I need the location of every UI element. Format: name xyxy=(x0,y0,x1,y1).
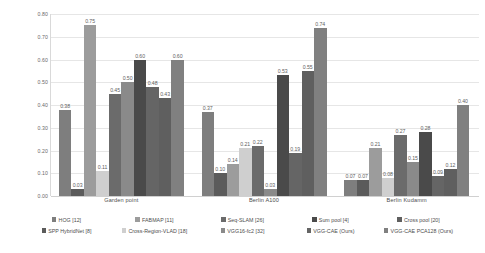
bar[interactable]: 0.21 xyxy=(369,148,382,196)
legend-item[interactable]: FABMAP [11] xyxy=(111,217,199,223)
legend-item[interactable]: VGG-CAE (Ours) xyxy=(287,228,375,234)
bar[interactable]: 0.60 xyxy=(171,60,184,197)
y-axis-tick-label: 0.50 xyxy=(18,79,48,85)
bar-slot: 0.48 xyxy=(146,14,159,196)
bar-value-label: 0.55 xyxy=(303,64,313,70)
legend-item[interactable]: HOG [12] xyxy=(23,217,111,223)
legend-label: VGG-CAE (Ours) xyxy=(313,228,354,234)
legend-label: Sum pool [4] xyxy=(319,217,349,223)
bar-slot: 0.07 xyxy=(344,14,357,196)
legend-item[interactable]: Cross-Region-VLAD [18] xyxy=(111,228,199,234)
bar-value-label: 0.14 xyxy=(228,157,238,163)
bar-value-label: 0.43 xyxy=(160,91,170,97)
bar-slot: 0.15 xyxy=(407,14,420,196)
y-axis-tick-label: 0.30 xyxy=(18,125,48,131)
bar[interactable]: 0.12 xyxy=(444,169,457,196)
y-axis-tick-label: 0.00 xyxy=(18,193,48,199)
bar-slot: 0.28 xyxy=(419,14,432,196)
legend-swatch-icon xyxy=(312,217,317,222)
x-axis-category-label: Berlin Kudamm xyxy=(335,197,478,203)
bar[interactable]: 0.40 xyxy=(457,105,470,196)
bar[interactable]: 0.11 xyxy=(96,171,109,196)
legend-swatch-icon xyxy=(221,217,226,222)
bar[interactable]: 0.55 xyxy=(302,71,315,196)
bar-slot: 0.12 xyxy=(444,14,457,196)
legend-row: HOG [12]FABMAP [11]Seq-SLAM [26]Sum pool… xyxy=(0,214,485,225)
y-axis-tick-label: 0.10 xyxy=(18,170,48,176)
bar-slot: 0.37 xyxy=(202,14,215,196)
bar-group: 0.370.100.140.210.220.030.530.190.550.74 xyxy=(193,14,336,196)
bar-slot: 0.74 xyxy=(314,14,327,196)
legend-item[interactable]: VGG-CAE PCA128 (Ours) xyxy=(375,228,463,234)
bar[interactable]: 0.15 xyxy=(407,162,420,196)
legend-label: FABMAP [11] xyxy=(142,217,174,223)
bar-slot: 0.09 xyxy=(432,14,445,196)
bar[interactable]: 0.50 xyxy=(121,82,134,196)
bar-slot: 0.14 xyxy=(227,14,240,196)
bar[interactable]: 0.03 xyxy=(71,189,84,196)
y-axis-tick-label: 0.60 xyxy=(18,57,48,63)
y-axis-tick-label: 0.20 xyxy=(18,148,48,154)
bar[interactable]: 0.27 xyxy=(394,135,407,196)
bar-value-label: 0.07 xyxy=(345,173,355,179)
bar[interactable]: 0.45 xyxy=(109,94,122,196)
bar-slot: 0.40 xyxy=(457,14,470,196)
bar-value-label: 0.19 xyxy=(290,146,300,152)
bar-slot: 0.08 xyxy=(382,14,395,196)
bar-value-label: 0.03 xyxy=(73,182,83,188)
legend-item[interactable]: SPP HybridNet [8] xyxy=(23,228,111,234)
bar[interactable]: 0.75 xyxy=(84,25,97,196)
bar-slot: 0.03 xyxy=(71,14,84,196)
legend-swatch-icon xyxy=(221,228,226,233)
bar-group: 0.070.070.210.080.270.150.280.090.120.40 xyxy=(335,14,478,196)
bar-value-label: 0.50 xyxy=(123,75,133,81)
bar-value-label: 0.10 xyxy=(215,166,225,172)
bar-value-label: 0.45 xyxy=(110,87,120,93)
legend-swatch-icon xyxy=(135,217,140,222)
bar[interactable]: 0.28 xyxy=(419,132,432,196)
bar-value-label: 0.21 xyxy=(370,141,380,147)
legend-item[interactable]: Sum pool [4] xyxy=(287,217,375,223)
bar[interactable]: 0.07 xyxy=(357,180,370,196)
bar-slot: 0.21 xyxy=(369,14,382,196)
bar[interactable]: 0.14 xyxy=(227,164,240,196)
bar[interactable]: 0.07 xyxy=(344,180,357,196)
bar[interactable]: 0.08 xyxy=(382,178,395,196)
bar[interactable]: 0.37 xyxy=(202,112,215,196)
legend-item[interactable]: Seq-SLAM [26] xyxy=(199,217,287,223)
bar[interactable]: 0.09 xyxy=(432,176,445,196)
y-axis-tick-label: 0.70 xyxy=(18,34,48,40)
bar[interactable]: 0.22 xyxy=(252,146,265,196)
bar-value-label: 0.60 xyxy=(135,53,145,59)
bar[interactable]: 0.48 xyxy=(146,87,159,196)
y-axis-tick-label: 0.40 xyxy=(18,102,48,108)
bar[interactable]: 0.21 xyxy=(239,148,252,196)
bar-value-label: 0.27 xyxy=(395,128,405,134)
bar[interactable]: 0.03 xyxy=(264,189,277,196)
legend-item[interactable]: Cross pool [20] xyxy=(375,217,463,223)
bar-slot: 0.10 xyxy=(214,14,227,196)
bar[interactable]: 0.10 xyxy=(214,173,227,196)
bar[interactable]: 0.19 xyxy=(289,153,302,196)
bar-value-label: 0.48 xyxy=(148,80,158,86)
bar[interactable]: 0.53 xyxy=(277,75,290,196)
legend-label: HOG [12] xyxy=(59,217,82,223)
bar-slot: 0.53 xyxy=(277,14,290,196)
bar-slot: 0.11 xyxy=(96,14,109,196)
bar-slot: 0.38 xyxy=(59,14,72,196)
bar[interactable]: 0.43 xyxy=(159,98,172,196)
bar-value-label: 0.09 xyxy=(433,169,443,175)
bar-slot: 0.22 xyxy=(252,14,265,196)
legend-swatch-icon xyxy=(307,228,312,233)
x-axis-category-label: Berlin A100 xyxy=(193,197,336,203)
bar-value-label: 0.60 xyxy=(173,53,183,59)
bar[interactable]: 0.38 xyxy=(59,110,72,196)
bar-value-label: 0.38 xyxy=(60,103,70,109)
bar-value-label: 0.08 xyxy=(383,171,393,177)
bar-value-label: 0.53 xyxy=(278,68,288,74)
bar-group: 0.380.030.750.110.450.500.600.480.430.60 xyxy=(50,14,193,196)
bar[interactable]: 0.60 xyxy=(134,60,147,197)
legend-item[interactable]: VGG16-fc2 [32] xyxy=(199,228,287,234)
legend-swatch-icon xyxy=(384,228,389,233)
bar[interactable]: 0.74 xyxy=(314,28,327,196)
